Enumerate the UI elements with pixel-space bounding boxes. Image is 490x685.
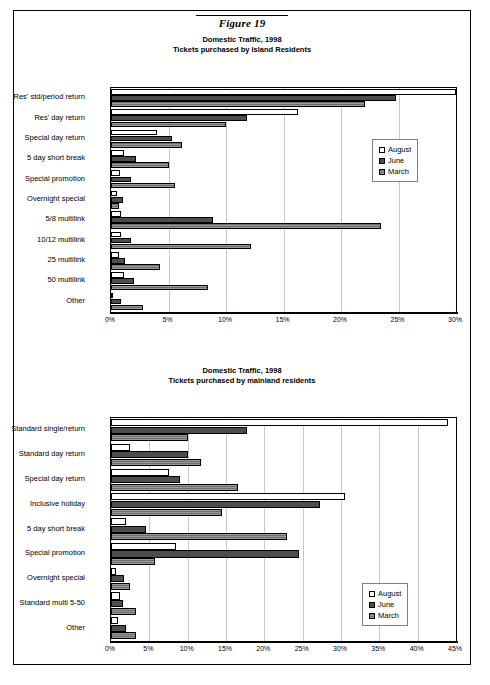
- x-tick-label: 15%: [213, 645, 237, 652]
- category-label: Inclusive holiday: [30, 499, 85, 508]
- bar-august: [111, 444, 130, 451]
- category-label: 5 day short break: [27, 524, 85, 533]
- bar-june: [111, 575, 124, 582]
- bar-march: [111, 484, 238, 491]
- bar-june: [111, 427, 247, 434]
- bar-march: [111, 509, 222, 516]
- bar-june: [111, 526, 146, 533]
- bar-march: [111, 434, 188, 441]
- bar-group: [111, 517, 456, 542]
- figure-frame: Figure 19 Domestic Traffic, 1998 Tickets…: [13, 10, 471, 665]
- x-tick-label: 45%: [443, 645, 467, 652]
- x-tick-label: 20%: [251, 645, 275, 652]
- x-tick-label: 10%: [175, 645, 199, 652]
- bar-march: [111, 533, 287, 540]
- bar-august: [111, 469, 169, 476]
- x-tick-label: 5%: [136, 645, 160, 652]
- bar-june: [111, 451, 188, 458]
- bar-group: [111, 443, 456, 468]
- legend-swatch-june-icon: [369, 602, 375, 608]
- bar-group: [111, 468, 456, 493]
- bar-august: [111, 419, 448, 426]
- gridline: [456, 418, 457, 641]
- category-label: Standard single/return: [11, 424, 85, 433]
- bar-march: [111, 583, 130, 590]
- x-tick-label: 0%: [98, 645, 122, 652]
- legend-swatch-march-icon: [369, 613, 375, 619]
- bar-august: [111, 592, 120, 599]
- category-label: Overnight special: [27, 573, 85, 582]
- bar-june: [111, 600, 123, 607]
- bar-june: [111, 501, 320, 508]
- bar-august: [111, 518, 126, 525]
- legend-item-march: March: [369, 610, 401, 621]
- x-tick-label: 35%: [366, 645, 390, 652]
- bar-group: [111, 492, 456, 517]
- bar-march: [111, 459, 201, 466]
- bar-august: [111, 568, 116, 575]
- legend-item-august: August: [369, 588, 401, 599]
- category-label: Special day return: [25, 474, 85, 483]
- bar-june: [111, 550, 299, 557]
- x-tick-label: 40%: [405, 645, 429, 652]
- x-tick-label: 30%: [328, 645, 352, 652]
- category-label: Standard multi 5-50: [20, 598, 85, 607]
- bar-june: [111, 476, 180, 483]
- category-label: Other: [66, 623, 85, 632]
- category-label: Standard day return: [19, 449, 85, 458]
- x-tick-label: 25%: [290, 645, 314, 652]
- bar-june: [111, 625, 126, 632]
- bar-march: [111, 558, 155, 565]
- bar-march: [111, 632, 136, 639]
- chart2-legend: AugustJuneMarch: [362, 583, 408, 626]
- category-label: Special promotion: [25, 548, 85, 557]
- chart2-axis-baseline: [110, 641, 458, 643]
- chart-mainland-residents: Standard single/returnStandard day retur…: [14, 11, 470, 666]
- legend-item-june: June: [369, 599, 401, 610]
- bar-march: [111, 608, 136, 615]
- bar-group: [111, 542, 456, 567]
- legend-label: March: [378, 610, 399, 621]
- legend-label: August: [378, 588, 401, 599]
- bar-august: [111, 493, 345, 500]
- legend-swatch-august-icon: [369, 591, 375, 597]
- bar-august: [111, 543, 176, 550]
- bar-group: [111, 418, 456, 443]
- legend-label: June: [378, 599, 394, 610]
- bar-august: [111, 617, 118, 624]
